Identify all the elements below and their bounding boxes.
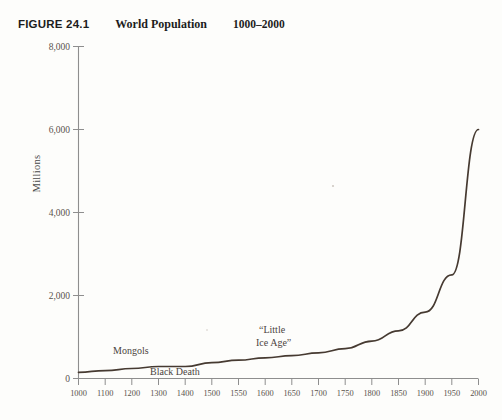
annotation-little-ice-age-line1: “Little [259,324,286,335]
y-tick-labels: 0 2,000 4,000 6,000 8,000 [49,42,71,384]
x-tick-label: 1000 [70,389,87,398]
annotation-mongols: Mongols [113,345,149,356]
x-tick-label: 1700 [310,389,327,398]
paper-speck [206,329,208,331]
x-tick-label: 1100 [97,389,113,398]
chart-plot-area: 0 2,000 4,000 6,000 8,000 [0,0,502,420]
paper-speck [332,185,334,187]
x-tick-label: 1600 [257,389,274,398]
y-tick-label: 0 [65,374,70,384]
x-tick-label: 1900 [417,389,434,398]
x-tick-label: 2000 [470,389,487,398]
y-tick-label: 4,000 [49,208,71,218]
x-tick-label: 1850 [390,389,407,398]
y-tick-label: 2,000 [49,291,71,301]
y-tick-label: 8,000 [49,42,71,52]
x-tick-label: 1500 [203,389,220,398]
x-tick-label: 1200 [123,389,140,398]
x-tick-labels: 1000 1100 1200 1300 1400 1500 1550 1600 … [70,389,487,398]
x-tick-label: 1300 [150,389,167,398]
x-tick-label: 1950 [443,389,460,398]
x-tick-label: 1400 [177,389,194,398]
y-tick-label: 6,000 [49,125,71,135]
x-tick-label: 1800 [363,389,380,398]
x-tick-label: 1550 [230,389,247,398]
population-line [79,130,479,373]
annotation-little-ice-age-line2: Ice Age” [256,337,291,348]
x-tick-label: 1650 [283,389,300,398]
x-tick-marks [79,379,479,386]
x-tick-label: 1750 [337,389,354,398]
annotation-black-death: Black Death [150,366,200,377]
figure-container: FIGURE 24.1 World Population 1000–2000 M… [0,0,502,420]
